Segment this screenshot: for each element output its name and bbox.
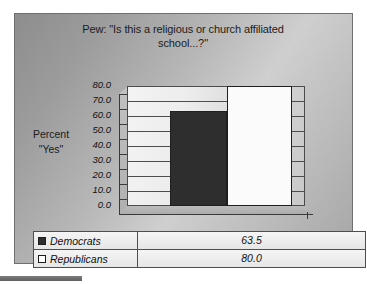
table-row: Republicans 80.0 <box>34 249 365 267</box>
bar-republicans[interactable] <box>227 86 292 206</box>
chart-panel: Pew: "Is this a religious or church affi… <box>14 13 353 264</box>
legend-swatch-icon <box>38 255 46 263</box>
y-tick-label: 80.0 <box>65 80 111 90</box>
plot-area <box>119 86 305 214</box>
chart-title-line-2: school...?" <box>33 36 333 50</box>
y-axis-line-back <box>127 86 128 206</box>
y-axis-tick-labels: 80.0 70.0 60.0 50.0 40.0 30.0 20.0 10.0 … <box>61 80 111 216</box>
x-axis-end-tick <box>307 212 308 219</box>
legend-series-name: Republicans <box>50 253 108 265</box>
y-tick-label: 20.0 <box>65 170 111 180</box>
y-tick-label: 60.0 <box>65 110 111 120</box>
legend-data-table: Democrats 63.5 Republicans 80.0 <box>33 231 366 268</box>
legend-label-republicans: Republicans <box>34 250 138 267</box>
y-tick-label: 30.0 <box>65 155 111 165</box>
legend-label-democrats: Democrats <box>34 232 138 249</box>
screenshot-root: Pew: "Is this a religious or church affi… <box>0 0 367 284</box>
y-tick-label: 40.0 <box>65 140 111 150</box>
legend-swatch-icon <box>38 237 46 245</box>
y-tick-label: 50.0 <box>65 125 111 135</box>
y-tick-label: 70.0 <box>65 95 111 105</box>
chart-title-line-1: Pew: "Is this a religious or church affi… <box>33 22 333 36</box>
bottom-edge-strip <box>0 276 82 281</box>
legend-series-name: Democrats <box>50 235 101 247</box>
bar-democrats[interactable] <box>170 111 227 206</box>
y-tick-label: 0.0 <box>65 200 111 210</box>
chart-title: Pew: "Is this a religious or church affi… <box>33 22 333 50</box>
y-axis-line <box>119 94 120 215</box>
legend-value-democrats: 63.5 <box>138 232 365 249</box>
x-axis-line <box>119 214 313 215</box>
legend-value-republicans: 80.0 <box>138 250 365 267</box>
table-row: Democrats 63.5 <box>34 232 365 249</box>
y-tick-label: 10.0 <box>65 185 111 195</box>
